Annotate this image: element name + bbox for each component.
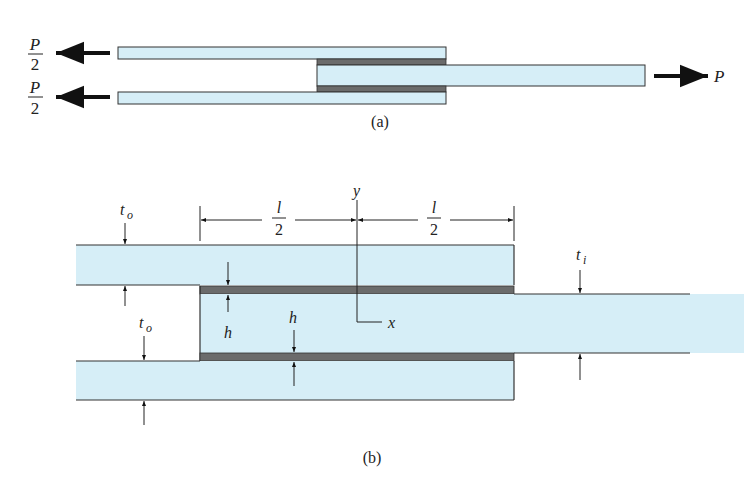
adhesive-layer-top <box>317 59 446 65</box>
adhesive-layer-bottom-detail <box>200 353 514 361</box>
svg-text:l: l <box>432 199 437 216</box>
adhesive-thickness-label-bottom: h <box>289 309 297 326</box>
caption-b: (b) <box>363 449 382 467</box>
force-label-left-bottom: P 2 <box>28 78 43 118</box>
svg-text:2: 2 <box>31 55 40 74</box>
inner-adherend <box>317 65 645 86</box>
double-lap-joint-figure: P 2 P 2 P (a) y <box>0 0 744 477</box>
svg-text:o: o <box>146 321 152 335</box>
svg-text:t: t <box>139 314 144 331</box>
svg-text:o: o <box>127 208 133 222</box>
svg-text:t: t <box>576 246 581 263</box>
svg-text:2: 2 <box>275 221 283 238</box>
adhesive-layer-bottom <box>317 86 446 92</box>
part-b: y x l 2 l 2 t o h t o <box>76 182 744 467</box>
x-axis-label: x <box>387 314 395 331</box>
part-a: P 2 P 2 P (a) <box>28 35 724 131</box>
svg-text:2: 2 <box>31 99 40 118</box>
svg-text:P: P <box>29 35 40 54</box>
outer-thickness-label-top: t o <box>120 201 133 222</box>
svg-text:i: i <box>583 253 586 267</box>
inner-thickness-label: t i <box>576 246 586 267</box>
top-outer-adherend-detail <box>76 245 514 285</box>
adhesive-thickness-label-top: h <box>224 324 232 341</box>
half-length-label-right: l 2 <box>427 199 441 238</box>
inner-adherend-detail <box>200 294 744 353</box>
force-label-right: P <box>713 67 724 86</box>
svg-text:t: t <box>120 201 125 218</box>
caption-a: (a) <box>371 113 389 131</box>
outer-thickness-label-bottom: t o <box>139 314 152 335</box>
bottom-outer-adherend <box>118 92 446 104</box>
svg-text:l: l <box>277 199 282 216</box>
half-length-label-left: l 2 <box>272 199 286 238</box>
svg-text:2: 2 <box>430 221 438 238</box>
force-label-left-top: P 2 <box>28 35 43 74</box>
y-axis-label: y <box>351 182 361 200</box>
bottom-outer-adherend-detail <box>76 361 514 400</box>
top-outer-adherend <box>118 47 446 59</box>
svg-text:P: P <box>29 78 40 97</box>
